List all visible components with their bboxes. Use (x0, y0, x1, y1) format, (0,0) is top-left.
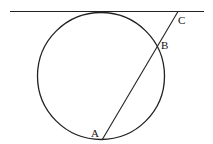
label-b: B (161, 39, 168, 51)
circle (38, 13, 165, 140)
geometry-diagram: C B A (0, 0, 213, 144)
segment-ac (102, 12, 178, 141)
label-c: C (178, 14, 185, 26)
label-a: A (91, 127, 99, 139)
